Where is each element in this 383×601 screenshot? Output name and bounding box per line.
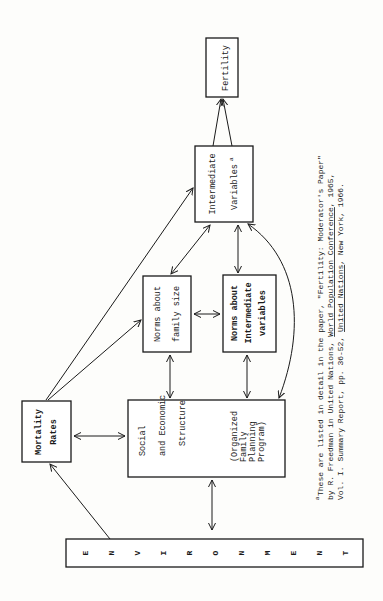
intermediate-superscript: a [228, 157, 235, 161]
intermediate-variables-box [195, 146, 253, 222]
edge-norms-family-intermediate [171, 225, 210, 274]
environment-letter: N [315, 550, 324, 555]
footnote-line-3-post: , New York, 1966. [336, 183, 345, 265]
edge-mortality-norms-family [48, 320, 141, 400]
footnote-line-1: These are listed in detail in the paper,… [316, 155, 325, 496]
environment-letter: N [237, 550, 246, 555]
footnote-line-2-title: World Population Conference [326, 207, 335, 337]
social-line-3: Structure [178, 400, 188, 446]
edge-environment-mortality [50, 464, 110, 539]
norms-family-size-box [143, 276, 191, 352]
edge-intermediate-fertility-2 [223, 99, 232, 146]
edge-intermediate-fertility-1 [213, 99, 221, 146]
mortality-line-1: Mortality [34, 409, 44, 455]
causal-diagram: ENVIRONMENT Mortality Rates Social and E… [0, 0, 383, 601]
footnote-line-2-pre: by R. Freedman in United Nations, [326, 337, 335, 500]
norms-family-line-2: family size [172, 286, 182, 342]
environment-letter: R [185, 550, 194, 555]
mortality-line-2: Rates [49, 419, 59, 445]
intermediate-line-2: Variables [230, 164, 240, 210]
mortality-box [22, 401, 71, 462]
fertility-label: Fertility [221, 45, 231, 91]
norms-family-line-1: Norms about [153, 286, 163, 342]
norms-intermediate-line-2: Intermediate [244, 282, 254, 343]
footnote: a These are listed in detail in the pape… [314, 155, 345, 500]
social-sub-line-4: Program) [257, 421, 267, 462]
social-line-2: and Economic [158, 395, 168, 456]
environment-letter: O [211, 550, 220, 555]
social-line-1: Social [138, 425, 148, 456]
environment-letter: E [289, 550, 298, 555]
environment-letter: E [81, 550, 90, 555]
fertility-text: Fertility [221, 45, 231, 91]
footnote-line-2-post: , 1965, [326, 174, 335, 208]
environment-letter: M [263, 550, 272, 555]
environment-letter: V [133, 550, 142, 555]
footnote-line-2: by R. Freedman in United Nations, World … [326, 174, 335, 500]
footnote-line-3: Vol. I. Summary Report, pp. 36-52, Unite… [336, 183, 345, 500]
environment-letter: T [341, 550, 350, 555]
intermediate-line-1: Intermediate [208, 153, 218, 214]
norms-intermediate-line-1: Norms about [230, 285, 240, 341]
footnote-line-3-publisher: United Nations [336, 265, 345, 332]
norms-intermediate-label: Norms about Intermediate variables [230, 282, 268, 343]
footnote-line-3-pre: Vol. I. Summary Report, pp. 36-52, [336, 332, 345, 500]
environment-letter: I [159, 550, 168, 555]
norms-intermediate-line-3: variables [258, 290, 268, 336]
environment-letter: N [107, 550, 116, 555]
